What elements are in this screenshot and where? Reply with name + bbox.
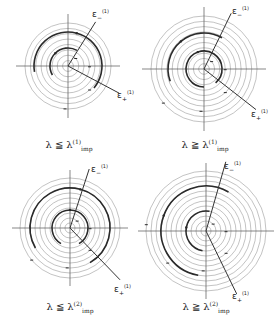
epsilon-plus-ray [206, 231, 237, 294]
diagram-panel-top-right [142, 7, 266, 131]
epsilon-plus-label: ε+(1) [251, 108, 268, 121]
epsilon-minus-label: ε−(1) [91, 163, 108, 176]
orbit-arrow-icon [185, 226, 187, 228]
epsilon-plus-label: ε+(1) [232, 290, 249, 303]
epsilon-plus-ray [68, 66, 119, 93]
epsilon-minus-label: ε−(1) [224, 160, 241, 173]
epsilon-minus-label: ε−(1) [232, 5, 249, 18]
epsilon-plus-label: ε+(1) [117, 89, 134, 102]
epsilon-minus-label: ε−(1) [92, 8, 109, 21]
orbit-arrow-icon [79, 188, 81, 190]
orbit-arrow-icon [69, 209, 71, 211]
orbit-arrow-icon [76, 32, 78, 34]
diagram-panel-bottom-left [12, 169, 128, 286]
diagram-panel-top-left [16, 14, 120, 118]
panel-caption-top-right: λ ≧ λ(1)imp [181, 138, 228, 152]
panel-caption-bottom-left: λ ≦ λ(2)imp [46, 300, 93, 314]
bold-orbit-arc [50, 48, 77, 75]
orbit-arrow-icon [163, 214, 165, 216]
diagram-panel-bottom-right [138, 162, 274, 299]
orbit-arrow-icon [180, 40, 182, 42]
epsilon-plus-label: ε+(1) [114, 283, 131, 296]
orbit-arrow-icon [197, 51, 199, 53]
orbit-arrow-icon [54, 52, 56, 54]
panel-caption-top-left: λ ≦ λ(1)imp [45, 138, 92, 152]
panel-caption-bottom-right: λ ≧ λ(2)imp [182, 300, 229, 314]
